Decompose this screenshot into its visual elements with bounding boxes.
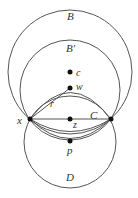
label-B-prime: B′ bbox=[66, 43, 75, 54]
label-B: B bbox=[67, 11, 74, 22]
point-right bbox=[109, 117, 114, 122]
label-C: C bbox=[90, 110, 97, 121]
point-x bbox=[28, 117, 33, 122]
point-c bbox=[68, 70, 73, 75]
circles-figure bbox=[0, 0, 138, 198]
label-r: r bbox=[50, 99, 54, 109]
diagram: B B′ c w r x z C p D bbox=[0, 0, 138, 198]
label-z: z bbox=[73, 120, 77, 130]
label-p: p bbox=[67, 145, 73, 156]
label-x: x bbox=[17, 115, 22, 126]
label-w: w bbox=[76, 82, 83, 92]
label-c: c bbox=[76, 68, 80, 78]
arc-lower-2 bbox=[30, 119, 111, 139]
point-z bbox=[68, 117, 73, 122]
point-p bbox=[68, 139, 73, 144]
point-w bbox=[68, 86, 73, 91]
label-D: D bbox=[66, 172, 74, 183]
